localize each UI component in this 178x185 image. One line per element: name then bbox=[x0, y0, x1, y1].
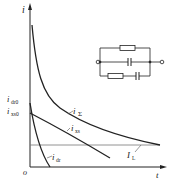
svg-text:dr0: dr0 bbox=[11, 99, 19, 105]
svg-text:i: i bbox=[7, 106, 10, 116]
svg-text:i: i bbox=[7, 94, 10, 104]
resistor-bottom-icon bbox=[108, 74, 123, 79]
label-i-xs0: i xs0 bbox=[7, 106, 19, 117]
svg-text:xs0: xs0 bbox=[11, 111, 19, 117]
terminal-right-icon bbox=[160, 60, 164, 64]
svg-text:i: i bbox=[71, 123, 74, 133]
y-axis-arrow-icon bbox=[28, 3, 32, 10]
svg-text:L: L bbox=[132, 155, 136, 161]
i-l-leader bbox=[135, 145, 141, 152]
axes bbox=[28, 3, 167, 169]
label-i-dr0: i dr0 bbox=[7, 94, 19, 105]
x-axis-label: t bbox=[156, 170, 159, 180]
origin-label: o bbox=[23, 168, 27, 177]
current-time-diagram: i t o i Σ i xs i dr I L i dr0 i xs0 bbox=[0, 0, 178, 185]
i-xs-leader bbox=[67, 128, 70, 131]
svg-text:i: i bbox=[52, 152, 55, 162]
x-axis-arrow-icon bbox=[160, 165, 167, 169]
label-I-L: I L bbox=[126, 150, 136, 161]
label-i-xs: i xs bbox=[71, 123, 80, 134]
svg-text:xs: xs bbox=[75, 128, 80, 134]
total-current-curve bbox=[32, 25, 160, 145]
svg-text:I: I bbox=[126, 150, 131, 160]
capacitive-current-curve bbox=[30, 103, 50, 167]
svg-text:i: i bbox=[73, 106, 76, 116]
resistor-top-icon bbox=[120, 46, 135, 51]
y-axis-label: i bbox=[22, 4, 25, 15]
svg-text:dr: dr bbox=[56, 157, 61, 163]
equivalent-circuit bbox=[96, 46, 164, 81]
svg-text:Σ: Σ bbox=[78, 110, 82, 118]
label-i-dr: i dr bbox=[52, 152, 61, 163]
